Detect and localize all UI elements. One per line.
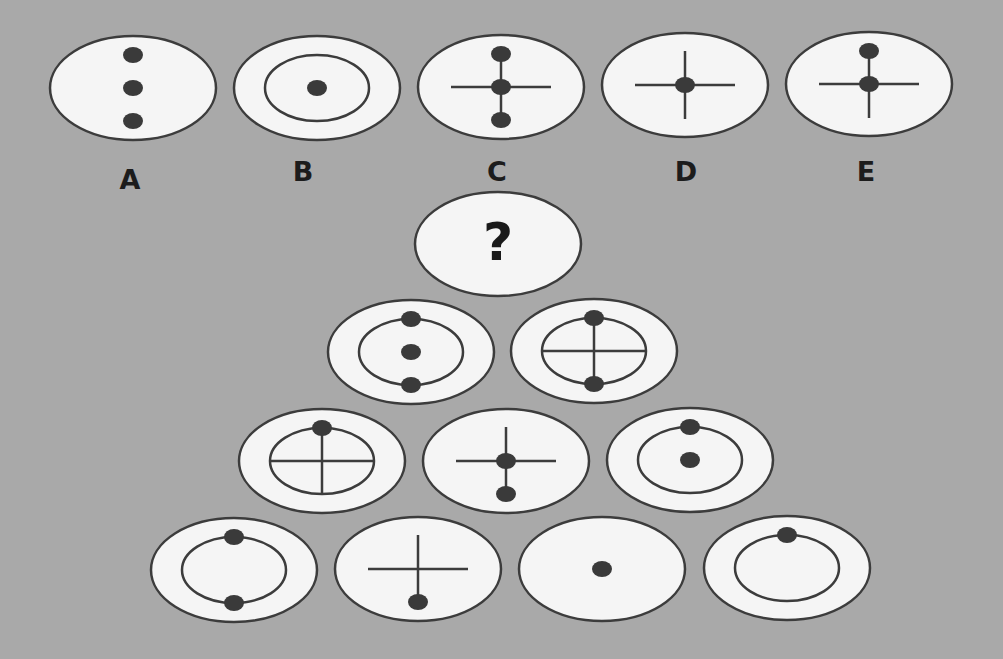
dot-center — [859, 76, 879, 92]
option-label-e: E — [857, 156, 875, 187]
question-mark: ? — [483, 212, 513, 272]
dot-top — [680, 419, 700, 435]
answer-option-d[interactable] — [602, 33, 768, 137]
dot-top — [401, 311, 421, 327]
dot-bottom — [224, 595, 244, 611]
pyramid-figure-r2-c2 — [423, 409, 589, 513]
dot-top — [859, 43, 879, 59]
pyramid-figure-r1-c2 — [511, 299, 677, 403]
dot-center — [307, 80, 327, 96]
dot-center — [680, 452, 700, 468]
pyramid-figure-r1-c1 — [328, 300, 494, 404]
option-label-b: B — [293, 156, 314, 187]
dot-bottom — [584, 376, 604, 392]
dot-top — [312, 420, 332, 436]
option-label-d: D — [675, 156, 697, 187]
dot-bottom — [491, 112, 511, 128]
dot-top — [123, 47, 143, 63]
dot-center — [592, 561, 612, 577]
dot-top — [777, 527, 797, 543]
dot-bottom — [401, 377, 421, 393]
dot-top — [584, 310, 604, 326]
answer-option-e[interactable] — [786, 32, 952, 136]
pyramid-figure-r3-c2 — [335, 517, 501, 621]
dot-center — [401, 344, 421, 360]
pyramid-figure-r3-c4 — [704, 516, 870, 620]
dot-top — [224, 529, 244, 545]
pyramid-figure-r2-c1 — [239, 409, 405, 513]
dot-center — [491, 79, 511, 95]
dot-bottom — [408, 594, 428, 610]
dot-center — [496, 453, 516, 469]
dot-center — [123, 80, 143, 96]
answer-option-b[interactable] — [234, 36, 400, 140]
option-label-c: C — [487, 156, 507, 187]
pyramid-figure-r2-c3 — [607, 408, 773, 512]
puzzle-stage: ABCDE? — [0, 0, 1003, 659]
answer-option-c[interactable] — [418, 35, 584, 139]
answer-option-a[interactable] — [50, 36, 216, 140]
pyramid-figure-r3-c1 — [151, 518, 317, 622]
puzzle-canvas — [0, 0, 1003, 659]
pyramid-figure-r3-c3 — [519, 517, 685, 621]
dot-center — [675, 77, 695, 93]
dot-top — [491, 46, 511, 62]
dot-bottom — [123, 113, 143, 129]
option-label-a: A — [120, 164, 141, 195]
dot-bottom — [496, 486, 516, 502]
